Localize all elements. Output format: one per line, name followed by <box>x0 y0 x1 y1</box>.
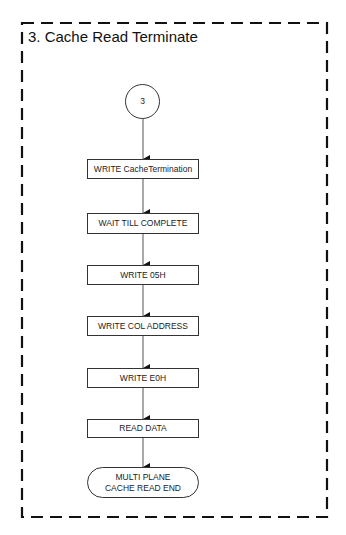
step-label: WRITE COL ADDRESS <box>98 321 188 332</box>
diagram-title: 3. Cache Read Terminate <box>28 28 198 45</box>
step-write-cache-termination: WRITE CacheTermination <box>87 159 199 179</box>
step-label: WRITE E0H <box>120 373 166 384</box>
step-label: WAIT TILL COMPLETE <box>99 218 188 229</box>
start-connector-label: 3 <box>140 96 145 107</box>
step-write-col-address: WRITE COL ADDRESS <box>87 316 199 336</box>
step-label: WRITE 05H <box>120 270 165 281</box>
step-write-05h: WRITE 05H <box>87 265 199 285</box>
step-label: WRITE CacheTermination <box>94 164 192 175</box>
step-write-e0h: WRITE E0H <box>87 368 199 388</box>
step-read-data: READ DATA <box>87 419 199 438</box>
step-wait-till-complete: WAIT TILL COMPLETE <box>87 213 199 234</box>
end-terminal: MULTI PLANE CACHE READ END <box>87 467 199 498</box>
start-connector: 3 <box>125 84 160 119</box>
end-terminal-label: MULTI PLANE CACHE READ END <box>102 472 184 493</box>
step-label: READ DATA <box>119 423 166 434</box>
